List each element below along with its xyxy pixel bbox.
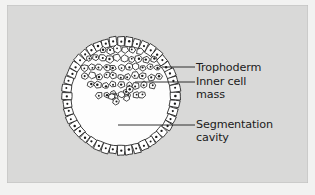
- inner-cell-mass-nucleus: [111, 67, 113, 69]
- trophoderm-nucleus: [79, 59, 81, 61]
- inner-cell-mass-nucleus: [121, 67, 123, 69]
- inner-cell-mass-nucleus: [98, 95, 100, 97]
- trophoderm-nucleus: [128, 40, 130, 42]
- trophoderm-nucleus: [66, 103, 68, 105]
- inner-cell-mass-nucleus: [96, 84, 98, 86]
- label-segmentation-cavity: Segmentationcavity: [196, 119, 273, 144]
- inner-cell-mass-nucleus: [90, 83, 92, 85]
- trophoderm-nucleus: [150, 140, 152, 142]
- inner-cell-mass-cell: [131, 72, 138, 79]
- inner-cell-mass-nucleus: [102, 48, 105, 51]
- inner-cell-mass-nucleus: [134, 85, 136, 87]
- inner-cell-mass-nucleus: [126, 76, 128, 78]
- inner-cell-mass-nucleus: [143, 84, 145, 86]
- inner-cell-mass-nucleus: [92, 67, 94, 69]
- inner-cell-mass-nucleus: [105, 85, 107, 87]
- inner-cell-mass-nucleus: [156, 67, 158, 69]
- trophoderm-nucleus: [161, 59, 163, 61]
- trophoderm-nucleus: [79, 130, 81, 132]
- label-line: Trophoderm: [196, 62, 261, 75]
- inner-cell-mass-nucleus: [150, 76, 152, 78]
- inner-cell-mass-cell: [109, 94, 115, 100]
- inner-cell-mass-nucleus: [95, 56, 97, 58]
- trophoderm-nucleus: [66, 95, 68, 97]
- inner-cell-mass-nucleus: [152, 84, 154, 86]
- inner-cell-mass-nucleus: [115, 100, 117, 102]
- inner-cell-mass-nucleus: [153, 57, 155, 59]
- trophoderm-nucleus: [174, 87, 176, 89]
- inner-cell-mass-nucleus: [89, 57, 91, 59]
- inner-cell-mass-nucleus: [145, 58, 147, 60]
- trophoderm-nucleus: [143, 145, 145, 147]
- inner-cell-mass-nucleus: [120, 83, 122, 85]
- inner-cell-mass-nucleus: [134, 75, 136, 77]
- label-line: mass: [196, 89, 246, 102]
- trophoderm-nucleus: [105, 43, 107, 45]
- trophoderm-nucleus: [169, 118, 171, 120]
- trophoderm-nucleus: [73, 125, 75, 127]
- trophoderm-nucleus: [67, 80, 69, 82]
- diagram-stage: Trophoderm Inner cellmass Segmentationca…: [7, 5, 308, 183]
- trophoderm-nucleus: [155, 136, 157, 138]
- inner-cell-mass-nucleus: [128, 66, 130, 68]
- inner-cell-mass-nucleus: [106, 94, 108, 96]
- inner-cell-mass-nucleus: [112, 84, 114, 86]
- trophoderm-nucleus: [112, 148, 114, 150]
- trophoderm-nucleus: [68, 110, 70, 112]
- inner-cell-mass-nucleus: [158, 75, 161, 78]
- trophoderm-nucleus: [112, 40, 114, 42]
- inner-cell-mass-nucleus: [138, 58, 140, 60]
- inner-cell-mass-nucleus: [120, 77, 122, 79]
- trophoderm-nucleus: [156, 53, 158, 55]
- trophoderm-nucleus: [135, 148, 137, 150]
- label-line: Segmentation: [196, 119, 273, 132]
- inner-cell-mass-nucleus: [141, 75, 143, 77]
- inner-cell-mass-nucleus: [129, 88, 131, 90]
- label-line: cavity: [196, 132, 273, 145]
- inner-cell-mass-nucleus: [102, 57, 104, 59]
- inner-cell-mass-nucleus: [83, 68, 85, 70]
- trophoderm-nucleus: [120, 150, 122, 152]
- inner-cell-mass-nucleus: [97, 67, 99, 69]
- inner-cell-mass-nucleus: [98, 76, 100, 78]
- trophoderm-nucleus: [172, 110, 174, 112]
- trophoderm-nucleus: [97, 45, 100, 48]
- inner-cell-mass-nucleus: [131, 48, 133, 50]
- inner-cell-mass-nucleus: [106, 74, 108, 76]
- trophoderm-nucleus: [84, 137, 86, 139]
- trophoderm-nucleus: [70, 118, 72, 120]
- label-line: Inner cell: [196, 76, 246, 89]
- trophoderm-nucleus: [98, 145, 100, 147]
- inner-cell-mass-nucleus: [108, 58, 110, 60]
- figure-panel: Trophoderm Inner cellmass Segmentationca…: [7, 5, 308, 183]
- trophoderm-nucleus: [71, 73, 73, 75]
- inner-cell-mass-nucleus: [136, 94, 138, 96]
- trophoderm-nucleus: [120, 41, 122, 43]
- trophoderm-nucleus: [136, 43, 138, 45]
- trophoderm-nucleus: [74, 66, 76, 68]
- trophoderm-nucleus: [160, 130, 162, 132]
- inner-cell-mass-nucleus: [116, 47, 118, 49]
- trophoderm-nucleus: [150, 49, 152, 51]
- trophoderm-nucleus: [105, 147, 107, 149]
- trophoderm-nucleus: [90, 49, 92, 51]
- inner-cell-mass-nucleus: [109, 49, 111, 51]
- trophoderm-nucleus: [174, 102, 176, 104]
- blastocyst-diagram: [7, 5, 308, 183]
- inner-cell-mass-nucleus: [105, 66, 107, 68]
- trophoderm-nucleus: [143, 45, 145, 47]
- label-trophoderm: Trophoderm: [196, 62, 261, 75]
- inner-cell-mass-nucleus: [84, 75, 86, 77]
- inner-cell-mass-nucleus: [150, 66, 152, 68]
- trophoderm-nucleus: [169, 72, 171, 74]
- inner-cell-mass-nucleus: [112, 74, 114, 76]
- inner-cell-mass-nucleus: [142, 66, 144, 68]
- inner-cell-mass-nucleus: [142, 93, 144, 95]
- trophoderm-nucleus: [174, 95, 177, 98]
- trophoderm-nucleus: [128, 148, 130, 150]
- label-inner-cell-mass: Inner cellmass: [196, 76, 246, 101]
- trophoderm-nucleus: [65, 87, 67, 89]
- trophoderm-nucleus: [84, 53, 86, 55]
- trophoderm-nucleus: [90, 140, 92, 142]
- inner-cell-mass-nucleus: [131, 58, 133, 60]
